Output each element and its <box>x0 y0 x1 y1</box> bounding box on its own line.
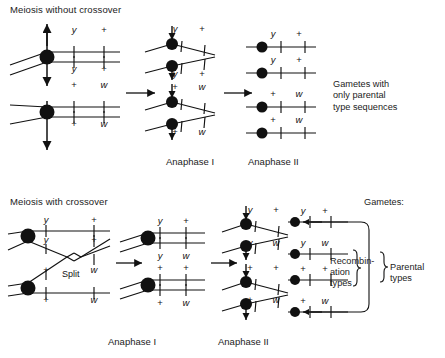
allele-label: w <box>88 264 100 275</box>
allele-label: + <box>196 23 208 34</box>
allele-label: w <box>98 79 110 90</box>
stage-label-anaphase-1-bottom: Anaphase I <box>108 336 156 347</box>
allele-label: + <box>319 263 331 274</box>
allele-label: w <box>270 294 282 305</box>
allele-label: + <box>293 54 305 65</box>
allele-label: + <box>88 234 100 245</box>
allele-label: + <box>293 28 305 39</box>
parental-types-label: Parental types <box>390 262 424 284</box>
panel-title-with-crossover: Meiosis with crossover <box>10 196 108 207</box>
allele-label: + <box>244 262 256 273</box>
allele-label: y <box>169 68 181 79</box>
allele-label: y <box>40 234 52 245</box>
allele-label: + <box>88 214 100 225</box>
allele-label: w <box>88 294 100 305</box>
allele-label: y <box>244 204 256 215</box>
allele-label: + <box>40 294 52 305</box>
allele-label: y <box>297 237 309 248</box>
allele-label: w <box>98 118 110 129</box>
panel-title-without-crossover: Meiosis without crossover <box>10 4 121 15</box>
diagram-canvas <box>0 0 445 358</box>
allele-label: + <box>319 205 331 216</box>
allele-label: y <box>154 250 166 261</box>
allele-label: w <box>319 237 331 248</box>
allele-label: w <box>180 297 192 308</box>
allele-label: w <box>196 81 208 92</box>
top-panel-anaphase2-gametes <box>246 41 316 139</box>
allele-label: w <box>293 88 305 99</box>
allele-label: + <box>68 118 80 129</box>
allele-label: y <box>68 24 80 35</box>
allele-label: + <box>270 262 282 273</box>
allele-label: w <box>196 126 208 137</box>
allele-label: w <box>270 237 282 248</box>
recombination-types-label: Recombin- ation types <box>330 256 374 290</box>
meiosis-crossover-figure: Meiosis without crossover Meiosis with c… <box>0 0 445 358</box>
split-label: Split <box>62 269 80 279</box>
stage-label-anaphase-2-bottom: Anaphase II <box>218 336 269 347</box>
stage-label-anaphase-1-top: Anaphase I <box>166 156 214 167</box>
allele-label: + <box>40 264 52 275</box>
allele-label: + <box>180 215 192 226</box>
allele-label: + <box>98 24 110 35</box>
allele-label: + <box>267 114 279 125</box>
allele-label: + <box>180 262 192 273</box>
allele-label: + <box>169 81 181 92</box>
allele-label: + <box>154 297 166 308</box>
parental-types-brace <box>380 252 388 282</box>
allele-label: y <box>169 23 181 34</box>
allele-label: w <box>293 114 305 125</box>
allele-label: + <box>267 88 279 99</box>
allele-label: + <box>68 79 80 90</box>
allele-label: + <box>244 294 256 305</box>
gametes-parental-note: Gametes with only parental type sequence… <box>333 79 397 113</box>
allele-label: y <box>297 205 309 216</box>
allele-label: + <box>270 204 282 215</box>
allele-label: y <box>68 63 80 74</box>
allele-label: + <box>297 295 309 306</box>
allele-label: + <box>297 263 309 274</box>
allele-label: w <box>180 250 192 261</box>
gametes-heading: Gametes: <box>364 197 404 207</box>
allele-label: + <box>154 262 166 273</box>
stage-label-anaphase-2-top: Anaphase II <box>248 156 299 167</box>
allele-label: y <box>267 28 279 39</box>
allele-label: y <box>40 214 52 225</box>
allele-label: w <box>319 295 331 306</box>
allele-label: y <box>267 54 279 65</box>
allele-label: y <box>154 215 166 226</box>
allele-label: + <box>169 126 181 137</box>
allele-label: + <box>196 68 208 79</box>
allele-label: y <box>244 237 256 248</box>
allele-label: + <box>98 63 110 74</box>
